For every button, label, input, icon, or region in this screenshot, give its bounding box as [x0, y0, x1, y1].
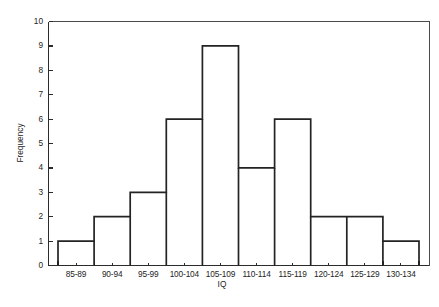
iq-frequency-histogram: 012345678910 85-8990-9495-99100-104105-1… — [0, 0, 439, 307]
y-tick-label: 2 — [38, 211, 43, 221]
y-tick-label: 4 — [38, 162, 43, 172]
histogram-screenshot: 012345678910 85-8990-9495-99100-104105-1… — [0, 0, 439, 307]
x-tick-label: 105-109 — [206, 269, 236, 279]
y-tick-label: 8 — [38, 65, 43, 75]
y-tick-label: 6 — [38, 114, 43, 124]
y-tick-label: 10 — [34, 16, 44, 26]
y-tick-label: 3 — [38, 187, 43, 197]
y-tick-label: 1 — [38, 236, 43, 246]
x-tick-label: 125-129 — [350, 269, 380, 279]
y-tick-label: 7 — [38, 89, 43, 99]
x-tick-label: 85-89 — [66, 269, 87, 279]
y-tick-label: 0 — [38, 260, 43, 270]
x-tick-label: 100-104 — [170, 269, 200, 279]
x-tick-label: 110-114 — [242, 269, 271, 279]
x-tick-label: 90-94 — [102, 269, 123, 279]
x-tick-label: 130-134 — [386, 269, 416, 279]
y-tick-label: 9 — [38, 40, 43, 50]
x-tick-label: 115-119 — [279, 269, 308, 279]
x-tick-label: 95-99 — [138, 269, 159, 279]
y-axis-title: Frequency — [15, 123, 25, 163]
y-tick-label: 5 — [38, 138, 43, 148]
x-axis-title: IQ — [218, 279, 227, 289]
x-tick-label: 120-124 — [314, 269, 344, 279]
